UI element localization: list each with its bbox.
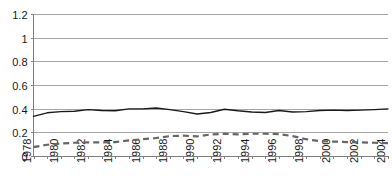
- x-axis-tick-label: 1998: [293, 139, 305, 163]
- x-axis-tick-label: 1980: [48, 139, 60, 163]
- y-axis-tick-label: 0.2: [12, 127, 27, 139]
- y-axis-tick-label: 0.8: [12, 56, 27, 68]
- y-axis-tick-label: 1: [21, 33, 27, 45]
- x-axis-tick-label: 1988: [157, 139, 169, 163]
- x-axis-tick-label: 1978: [21, 139, 33, 163]
- x-axis-tick-label: 1992: [211, 139, 223, 163]
- line-chart: 00.20.40.60.811.2 1978198019821984198619…: [0, 0, 392, 195]
- x-axis-tick-label: 1994: [239, 139, 251, 163]
- y-axis-tick-label: 0.6: [12, 80, 27, 92]
- x-axis-tick-label: 1986: [130, 139, 142, 163]
- y-axis-tick-label: 1.2: [12, 9, 27, 21]
- x-axis-tick-label: 1996: [266, 139, 278, 163]
- x-axis-tick-label: 1990: [184, 139, 196, 163]
- y-axis-tick-label: 0.4: [12, 104, 27, 116]
- chart-canvas: 00.20.40.60.811.2 1978198019821984198619…: [0, 0, 392, 195]
